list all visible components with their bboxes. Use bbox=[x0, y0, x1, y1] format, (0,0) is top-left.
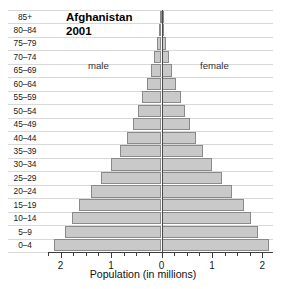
age-group-label: 30–34 bbox=[4, 159, 46, 169]
chart-title: Afghanistan 2001 bbox=[66, 11, 132, 38]
female-annotation: female bbox=[200, 60, 229, 71]
bar-female bbox=[162, 78, 177, 90]
age-group-label: 55–59 bbox=[4, 92, 46, 102]
x-axis-major-tick bbox=[111, 252, 112, 258]
bar-female bbox=[162, 226, 259, 238]
pyramid-row bbox=[48, 225, 273, 238]
bar-female bbox=[162, 91, 181, 103]
pyramid-row bbox=[48, 131, 273, 144]
pyramid-row bbox=[48, 144, 273, 157]
age-group-label: 10–14 bbox=[4, 213, 46, 223]
chart-title-line2: 2001 bbox=[66, 25, 132, 39]
age-group-label: 25–29 bbox=[4, 173, 46, 183]
bar-female bbox=[162, 145, 204, 157]
age-group-label: 45–49 bbox=[4, 119, 46, 129]
bar-female bbox=[162, 172, 223, 184]
x-axis-minor-tick bbox=[149, 252, 150, 256]
age-group-label: 35–39 bbox=[4, 146, 46, 156]
x-axis-major-tick bbox=[61, 252, 62, 258]
bar-male bbox=[147, 78, 162, 90]
pyramid-row bbox=[48, 185, 273, 198]
pyramid-row bbox=[48, 104, 273, 117]
age-group-label: 20–24 bbox=[4, 186, 46, 196]
bar-male bbox=[111, 158, 161, 170]
age-group-label: 80–84 bbox=[4, 25, 46, 35]
age-group-label: 40–44 bbox=[4, 133, 46, 143]
bar-female bbox=[162, 132, 197, 144]
x-axis-minor-tick bbox=[174, 252, 175, 256]
bar-male bbox=[72, 212, 162, 224]
pyramid-row bbox=[48, 64, 273, 77]
x-axis-minor-tick bbox=[86, 252, 87, 256]
bar-male bbox=[138, 105, 162, 117]
bar-male bbox=[151, 64, 162, 76]
bar-female bbox=[162, 212, 252, 224]
bar-male bbox=[142, 91, 161, 103]
bar-male bbox=[101, 172, 162, 184]
pyramid-row bbox=[48, 91, 273, 104]
x-axis-major-tick bbox=[262, 252, 263, 258]
age-group-label: 75–79 bbox=[4, 38, 46, 48]
bar-female bbox=[162, 239, 269, 251]
pyramid-row bbox=[48, 118, 273, 131]
x-axis-major-tick bbox=[162, 252, 163, 258]
bar-male bbox=[120, 145, 162, 157]
pyramid-row bbox=[48, 37, 273, 50]
center-axis-line bbox=[162, 10, 164, 252]
bar-male bbox=[65, 226, 162, 238]
male-annotation: male bbox=[88, 60, 109, 71]
pyramid-row bbox=[48, 212, 273, 225]
x-axis-minor-tick bbox=[48, 252, 49, 256]
age-group-label: 15–19 bbox=[4, 200, 46, 210]
bar-female bbox=[162, 118, 191, 130]
bar-male bbox=[79, 199, 161, 211]
age-group-label: 60–64 bbox=[4, 79, 46, 89]
bar-female bbox=[162, 105, 186, 117]
x-axis-minor-tick bbox=[136, 252, 137, 256]
age-group-label: 0–4 bbox=[4, 240, 46, 250]
pyramid-row bbox=[48, 50, 273, 63]
bar-female bbox=[162, 185, 233, 197]
pyramid-row bbox=[48, 77, 273, 90]
age-group-label: 70–74 bbox=[4, 52, 46, 62]
bar-male bbox=[54, 239, 161, 251]
pyramid-row bbox=[48, 239, 273, 252]
bar-female bbox=[162, 158, 212, 170]
x-axis-minor-tick bbox=[250, 252, 251, 256]
x-axis-minor-tick bbox=[225, 252, 226, 256]
plot-area: 21012 bbox=[48, 10, 273, 252]
age-group-label: 5–9 bbox=[4, 227, 46, 237]
x-axis-title: Population (in millions) bbox=[0, 268, 286, 280]
x-axis-minor-tick bbox=[199, 252, 200, 256]
x-axis-minor-tick bbox=[187, 252, 188, 256]
pyramid-row bbox=[48, 158, 273, 171]
age-group-label: 65–69 bbox=[4, 65, 46, 75]
x-axis-minor-tick bbox=[98, 252, 99, 256]
x-axis-minor-tick bbox=[237, 252, 238, 256]
x-axis-minor-tick bbox=[124, 252, 125, 256]
x-axis-minor-tick bbox=[73, 252, 74, 256]
x-axis-line bbox=[48, 252, 273, 253]
x-axis-major-tick bbox=[212, 252, 213, 258]
population-pyramid-chart: 85+80–8475–7970–7465–6960–6455–5950–5445… bbox=[0, 0, 286, 289]
bar-male bbox=[133, 118, 162, 130]
pyramid-row bbox=[48, 171, 273, 184]
pyramid-row bbox=[48, 198, 273, 211]
bar-female bbox=[162, 199, 244, 211]
chart-title-line1: Afghanistan bbox=[66, 11, 132, 23]
age-group-label: 85+ bbox=[4, 12, 46, 22]
bar-male bbox=[154, 51, 161, 63]
bar-male bbox=[91, 185, 162, 197]
age-group-label: 50–54 bbox=[4, 106, 46, 116]
bar-male bbox=[127, 132, 162, 144]
